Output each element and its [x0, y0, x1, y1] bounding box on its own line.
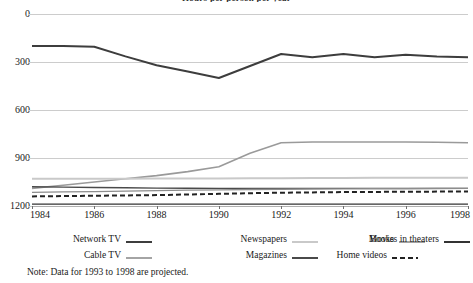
chart-note: Note: Data for 1993 to 1998 are projecte… [27, 266, 188, 279]
legend-item-label: Newspapers [241, 232, 287, 246]
legend-item[interactable]: Movies in theaters [369, 232, 470, 246]
y-tick-label: 600 [2, 105, 30, 115]
y-tick-label: 1200 [2, 201, 30, 211]
x-tick-label: 1986 [84, 210, 104, 220]
x-axis: 19841986198819901992199419961998 [32, 206, 468, 226]
legend-item-label: Cable TV [84, 248, 121, 262]
series-line [32, 178, 468, 179]
x-tick-label: 1996 [396, 210, 416, 220]
series-line [32, 192, 468, 197]
legend-item[interactable]: Newspapers [241, 232, 318, 246]
x-tick-label: 1998 [450, 210, 470, 220]
y-tick-label: 300 [2, 57, 30, 67]
plot-area [32, 14, 468, 206]
x-tick-label: 1994 [333, 210, 353, 220]
series-lines [32, 46, 468, 204]
y-tick-label: 0 [2, 9, 30, 19]
legend-item-label: Home videos [337, 248, 387, 262]
x-tick-label: 1988 [147, 210, 167, 220]
legend-item-label: Magazines [246, 248, 287, 262]
x-tick-label: 1984 [30, 210, 50, 220]
plot-svg [32, 14, 468, 206]
y-axis: 12009006003000 [0, 0, 30, 220]
legend-item[interactable]: Home videos [337, 248, 418, 262]
y-tick-label: 900 [2, 153, 30, 163]
chart-title: Hours per person per year [0, 0, 473, 2]
legend-item-label: Network TV [73, 232, 121, 246]
line-chart: Hours per person per year 12009006003000… [0, 0, 473, 283]
x-tick-label: 1990 [209, 210, 229, 220]
legend-item-label: Movies in theaters [369, 232, 439, 246]
x-tick-label: 1992 [271, 210, 291, 220]
legend-item[interactable]: Magazines [246, 248, 318, 262]
legend-item[interactable]: Cable TV [84, 248, 152, 262]
chart-legend: Network TVNewspapersBooksMovies in theat… [0, 232, 473, 266]
series-line [32, 142, 468, 188]
legend-item[interactable]: Network TV [73, 232, 152, 246]
